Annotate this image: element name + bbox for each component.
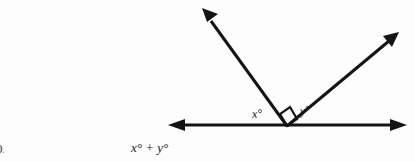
upper-left-ray-arrowhead (202, 8, 218, 22)
figure-page: x° y° x° + y° 0. (0, 0, 415, 162)
angle-label-y: y° (299, 104, 311, 117)
caption-expression: x° + y° (131, 141, 168, 154)
geometry-figure (0, 0, 415, 162)
baseline-left-arrowhead (168, 119, 185, 131)
list-item-marker: 0. (0, 142, 4, 155)
angle-label-x: x° (251, 107, 262, 120)
upper-left-ray (211, 21, 287, 126)
baseline-right-arrowhead (390, 119, 407, 131)
